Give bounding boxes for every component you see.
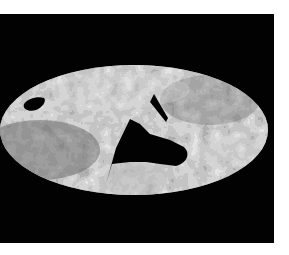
sky-map-panel — [0, 14, 274, 243]
sky-ellipse — [0, 60, 274, 200]
sky-map — [0, 14, 274, 243]
